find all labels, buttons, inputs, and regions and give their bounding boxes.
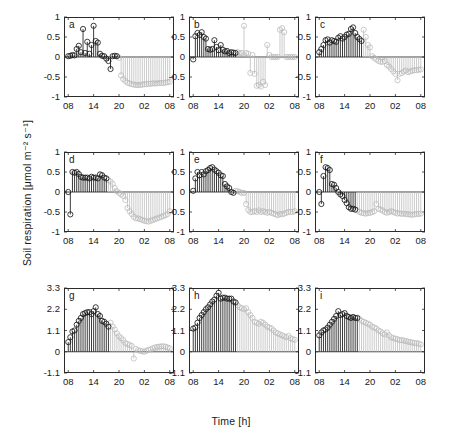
x-tick-label: 20 (233, 376, 255, 387)
x-tick-label: 14 (208, 100, 230, 111)
y-tick-label: 1 (281, 11, 311, 22)
panel-letter-i: i (320, 290, 322, 301)
panel-c: c (315, 17, 425, 97)
y-tick-label: -1 (281, 91, 311, 102)
panel-letter-c: c (320, 19, 325, 30)
x-tick-label: 02 (133, 100, 155, 111)
x-tick-label: 20 (108, 235, 130, 246)
x-tick-label: 20 (108, 376, 130, 387)
y-tick-label: 1 (30, 146, 60, 157)
panel-plot-f (315, 152, 425, 232)
panel-f: f (315, 152, 425, 232)
x-tick-label: 02 (384, 100, 406, 111)
x-tick-label: 20 (108, 100, 130, 111)
y-tick-label: 1 (155, 11, 185, 22)
predicted-series (355, 192, 424, 217)
x-tick-label: 08 (308, 376, 330, 387)
x-tick-label: 20 (359, 100, 381, 111)
x-tick-label: 08 (182, 100, 204, 111)
y-tick-label: 0.5 (30, 31, 60, 42)
y-tick-label: 3.3 (30, 282, 60, 293)
x-tick-label: 02 (258, 376, 280, 387)
y-tick-label: 1 (281, 146, 311, 157)
y-tick-label: 2.2 (30, 303, 60, 314)
predicted-series (357, 316, 424, 351)
x-tick-label: 20 (359, 235, 381, 246)
x-tick-label: 20 (233, 235, 255, 246)
x-tick-label: 08 (410, 376, 432, 387)
y-tick-label: 1 (30, 11, 60, 22)
y-tick-label: 0.5 (30, 166, 60, 177)
x-tick-label: 14 (208, 235, 230, 246)
figure-root: Soil respiration [μmol m⁻² s⁻¹] Time [h]… (0, 0, 462, 438)
x-tick-label: 20 (359, 376, 381, 387)
observed-series (66, 305, 111, 352)
y-tick-label: 2.2 (155, 303, 185, 314)
panel-letter-e: e (194, 154, 200, 165)
x-tick-label: 02 (384, 376, 406, 387)
x-tick-label: 14 (83, 100, 105, 111)
x-tick-label: 14 (83, 235, 105, 246)
y-tick-label: 0 (30, 51, 60, 62)
x-tick-label: 08 (57, 100, 79, 111)
y-tick-label: -1 (30, 91, 60, 102)
x-tick-label: 14 (208, 376, 230, 387)
x-axis-label: Time [h] (0, 415, 462, 427)
y-tick-label: -1.1 (155, 367, 185, 378)
y-tick-label: 3.3 (281, 282, 311, 293)
y-tick-label: 2.2 (281, 303, 311, 314)
y-tick-label: 0.5 (155, 166, 185, 177)
panel-plot-i (315, 288, 425, 373)
y-tick-label: 0 (281, 51, 311, 62)
y-tick-label: -1 (30, 226, 60, 237)
observed-series (191, 165, 236, 196)
y-tick-label: 0 (155, 51, 185, 62)
y-tick-label: 0.5 (281, 31, 311, 42)
x-tick-label: 02 (258, 100, 280, 111)
y-tick-label: 1.1 (281, 325, 311, 336)
y-tick-label: -0.5 (281, 71, 311, 82)
panel-plot-c (315, 17, 425, 97)
panel-letter-d: d (69, 154, 75, 165)
x-tick-label: 14 (334, 100, 356, 111)
y-tick-label: -0.5 (30, 206, 60, 217)
x-tick-label: 20 (233, 100, 255, 111)
panel-letter-g: g (69, 290, 75, 301)
x-tick-label: 08 (308, 235, 330, 246)
x-tick-label: 08 (57, 376, 79, 387)
y-tick-label: 0.5 (281, 166, 311, 177)
y-tick-label: 0 (155, 346, 185, 357)
x-tick-label: 08 (410, 100, 432, 111)
y-tick-label: 0 (155, 186, 185, 197)
x-tick-label: 02 (133, 376, 155, 387)
x-tick-label: 08 (410, 235, 432, 246)
y-tick-label: -1.1 (281, 367, 311, 378)
x-tick-label: 14 (334, 235, 356, 246)
x-tick-label: 08 (182, 376, 204, 387)
x-tick-label: 02 (133, 235, 155, 246)
panel-letter-f: f (320, 154, 323, 165)
predicted-series (106, 177, 173, 224)
y-tick-label: -0.5 (30, 71, 60, 82)
x-tick-label: 08 (308, 100, 330, 111)
x-tick-label: 08 (182, 235, 204, 246)
y-tick-label: 1.1 (155, 325, 185, 336)
panel-i: i (315, 288, 425, 373)
x-tick-label: 14 (83, 376, 105, 387)
panel-letter-a: a (69, 19, 75, 30)
predicted-series (361, 27, 423, 83)
y-tick-label: -1.1 (30, 367, 60, 378)
y-tick-label: 1.1 (30, 325, 60, 336)
y-tick-label: -0.5 (155, 206, 185, 217)
y-tick-label: 0.5 (155, 31, 185, 42)
x-tick-label: 14 (334, 376, 356, 387)
panel-letter-b: b (194, 19, 200, 30)
x-tick-label: 02 (258, 235, 280, 246)
y-tick-label: -1 (281, 226, 311, 237)
y-tick-label: 3.3 (155, 282, 185, 293)
y-tick-label: -1 (155, 226, 185, 237)
observed-series (317, 165, 358, 213)
y-tick-label: -0.5 (281, 206, 311, 217)
observed-series (66, 169, 109, 217)
observed-series (66, 23, 120, 71)
